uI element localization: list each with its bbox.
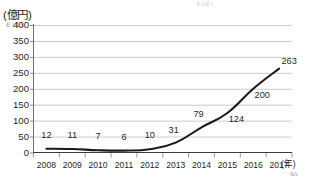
data-point-label: 10	[145, 132, 155, 141]
gridlines	[34, 26, 293, 138]
y-tick-label: 50	[3, 132, 29, 142]
y-tick-label: 0	[3, 148, 29, 158]
x-tick-label: 2014	[192, 161, 211, 170]
x-tick-label: 2015	[218, 161, 237, 170]
data-point-label: 124	[229, 115, 244, 124]
y-tick-label: 250	[3, 68, 29, 78]
y-axis-tick-labels: 400 350 300 250 200 150 100 50 0	[0, 0, 29, 183]
x-tick-label: 2009	[63, 161, 82, 170]
x-tick-label: 2008	[37, 161, 56, 170]
data-point-label: 6	[121, 133, 126, 142]
x-axis-title-ruby: ねん	[290, 170, 299, 176]
data-series-line	[46, 69, 279, 151]
y-axis-tick-marks	[30, 26, 34, 154]
x-tick-label: 2013	[166, 161, 185, 170]
y-tick-label: 300	[3, 52, 29, 62]
line-chart: きんがく (億円) おくえん 400 350 300 250 200 150 1…	[0, 0, 310, 183]
data-point-label: 7	[96, 133, 101, 142]
x-tick-label: 2012	[140, 161, 159, 170]
y-tick-label: 100	[3, 116, 29, 126]
y-tick-label: 200	[3, 84, 29, 94]
x-tick-label: 2016	[244, 161, 263, 170]
data-point-label: 79	[193, 111, 203, 120]
x-tick-label: 2010	[89, 161, 108, 170]
y-tick-label: 350	[3, 36, 29, 46]
data-point-label: 263	[281, 57, 296, 66]
data-point-label: 12	[41, 131, 51, 140]
data-point-label: 200	[255, 91, 270, 100]
top-note-ruby: きんがく	[196, 0, 214, 6]
data-point-label: 11	[68, 131, 78, 140]
x-axis-tick-marks	[34, 153, 293, 158]
data-point-label: 31	[169, 126, 179, 135]
x-axis-title: (年)	[281, 160, 296, 169]
y-tick-label: 400	[3, 20, 29, 30]
x-tick-label: 2011	[115, 161, 133, 170]
y-tick-label: 150	[3, 100, 29, 110]
